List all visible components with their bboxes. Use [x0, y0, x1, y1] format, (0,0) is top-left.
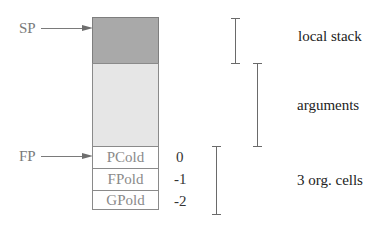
cell-label: FPold: [93, 169, 158, 189]
arguments-region: [92, 63, 159, 147]
offset-minus-2: -2: [174, 193, 187, 210]
fp-arrow-line: [41, 156, 83, 157]
cell-label: GPold: [93, 191, 158, 209]
bracket-org-cells-bottom: [212, 214, 221, 215]
stack-cell-pcold: PCold: [92, 146, 159, 169]
local-stack-region: [92, 17, 159, 64]
bracket-arguments: [257, 63, 258, 146]
sp-label: SP: [19, 21, 36, 36]
label-org-cells: 3 org. cells: [297, 172, 363, 189]
stack-cell-gpold: GPold: [92, 190, 159, 210]
bracket-local-stack: [235, 18, 236, 63]
cell-label: PCold: [93, 147, 158, 167]
offset-minus-1: -1: [174, 171, 187, 188]
bracket-org-cells: [216, 146, 217, 214]
stack-cell-fpold: FPold: [92, 168, 159, 191]
label-arguments: arguments: [297, 97, 359, 114]
fp-label: FP: [19, 149, 36, 164]
sp-arrow-line: [41, 28, 83, 29]
bracket-local-stack-bottom: [231, 63, 240, 64]
bracket-arguments-bottom: [253, 146, 262, 147]
label-local-stack: local stack: [298, 28, 362, 45]
offset-0: 0: [176, 149, 184, 166]
